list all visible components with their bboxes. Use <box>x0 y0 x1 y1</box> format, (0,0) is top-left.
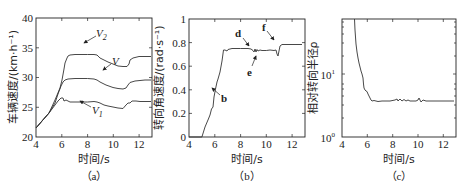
x-axis-label: 时间/s <box>231 153 263 166</box>
plot-area-c <box>342 19 456 137</box>
y-tick: 0.4 <box>172 84 186 96</box>
x-tick: 8 <box>238 138 244 150</box>
caption-a: （a） <box>81 170 108 182</box>
y-tick: 30 <box>22 71 34 83</box>
x-tick: 10 <box>108 138 120 150</box>
label-v2: V2 <box>96 27 107 42</box>
x-tick: 12 <box>287 138 298 150</box>
label-v: V <box>112 55 120 67</box>
y-tick: 0.6 <box>172 60 186 72</box>
x-tick: 8 <box>85 138 91 150</box>
chart-b: 4 6 8 10 12 0 0.2 0.4 0.6 0.8 1 转向角速度/(r… <box>152 13 305 182</box>
plot-area-b <box>189 19 305 137</box>
chart-a: 4 6 8 10 12 20 25 30 35 40 车辆速度/(km·h⁻¹)… <box>6 12 152 182</box>
y-tick: 0 <box>181 131 187 143</box>
y-tick-10-0: 100 <box>321 131 336 144</box>
x-tick: 12 <box>134 138 145 150</box>
y-tick: 35 <box>22 42 34 54</box>
y-tick: 0.2 <box>172 107 186 119</box>
x-tick: 6 <box>212 138 218 150</box>
y-tick-10-1: 101 <box>321 68 336 81</box>
label-v1: V1 <box>92 104 103 119</box>
x-tick: 4 <box>33 138 39 150</box>
y-axis-label: 转向角速度/(rad·s⁻¹) <box>152 26 166 131</box>
x-tick: 12 <box>438 138 449 150</box>
annotation-f: f <box>262 21 266 33</box>
x-tick: 6 <box>59 138 65 150</box>
y-tick: 20 <box>22 131 34 143</box>
series-v2 <box>36 55 151 129</box>
annotation-e: e <box>247 66 252 78</box>
x-tick: 6 <box>365 138 371 150</box>
x-tick: 4 <box>186 138 192 150</box>
y-tick: 1 <box>181 13 187 25</box>
caption-c: （c） <box>386 170 413 182</box>
y-axis-label: 相对转向半径ρ <box>306 41 320 114</box>
x-tick: 8 <box>390 138 396 150</box>
y-tick: 40 <box>22 12 34 24</box>
x-axis-label: 时间/s <box>383 153 415 166</box>
figure: 4 6 8 10 12 20 25 30 35 40 车辆速度/(km·h⁻¹)… <box>0 0 466 190</box>
x-axis-label: 时间/s <box>78 153 110 166</box>
annotation-b: b <box>221 92 227 104</box>
chart-c: 4 6 8 10 12 100 101 相对转向半径ρ 时间/s （c） <box>306 19 456 182</box>
x-tick: 10 <box>413 138 425 150</box>
y-tick: 25 <box>22 101 34 113</box>
annotation-d: d <box>235 27 241 39</box>
y-tick: 0.8 <box>172 37 186 49</box>
caption-b: （b） <box>233 170 261 182</box>
series-steering-rate <box>189 45 302 138</box>
x-tick: 10 <box>261 138 273 150</box>
x-tick: 4 <box>339 138 345 150</box>
y-axis-label: 车辆速度/(km·h⁻¹) <box>6 30 20 124</box>
plot-area-a <box>36 18 152 137</box>
series-rho <box>355 19 455 102</box>
